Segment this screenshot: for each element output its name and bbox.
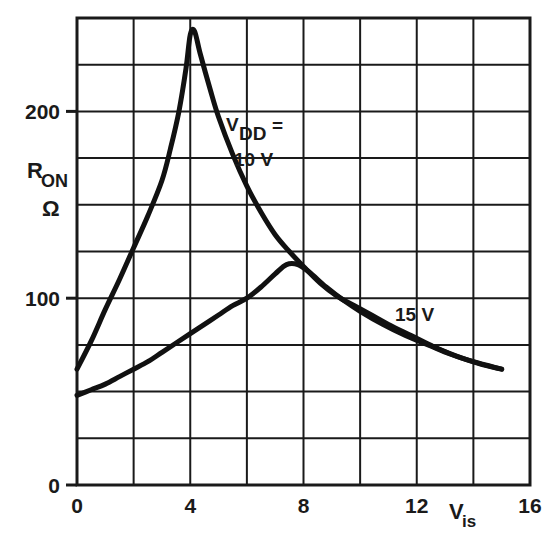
x-tick-label: 8 <box>298 494 310 517</box>
y-tick-label: 0 <box>48 474 60 497</box>
annotation-vdd-sub: DD <box>239 123 266 144</box>
annotation-15v: 15 V <box>395 304 434 325</box>
x-axis-title-sub: is <box>462 512 476 531</box>
annotation-vdd-v: V <box>226 114 239 135</box>
chart-figure: 0100200 0481216 R ON Ω V is V DD = 10 V … <box>0 0 551 549</box>
annotation-15v-value: 15 V <box>395 304 434 325</box>
x-tick-label: 0 <box>71 494 83 517</box>
x-tick-label: 12 <box>405 494 428 517</box>
annotation-vdd-equals: = <box>272 115 283 136</box>
x-tick-label: 16 <box>518 494 541 517</box>
y-tick-label: 100 <box>25 287 60 310</box>
y-axis-unit-omega: Ω <box>42 196 60 221</box>
x-tick-label: 4 <box>184 494 196 517</box>
ron-vs-vis-chart: 0100200 0481216 R ON Ω V is V DD = 10 V … <box>0 0 551 549</box>
y-tick-label: 200 <box>25 100 60 123</box>
y-axis-title-sub: ON <box>41 171 68 191</box>
annotation-vdd-value: 10 V <box>234 149 273 170</box>
